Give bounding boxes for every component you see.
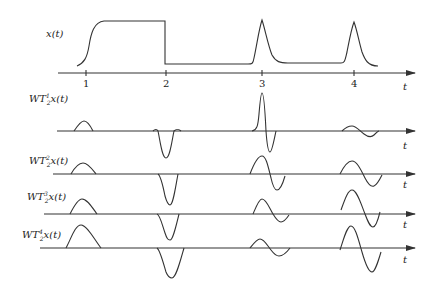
row-3-label: WT32x(t) (27, 190, 66, 204)
signal-axis-label: t (403, 81, 408, 92)
tick-label-1: 1 (83, 78, 89, 89)
row-1-label: WT12x(t) (29, 92, 68, 106)
row-2-curve (71, 156, 382, 205)
row-2-axis-label: t (403, 179, 408, 190)
signal-curve (77, 20, 378, 66)
row-4-axis-label: t (403, 254, 408, 265)
row-4-label: WT42x(t) (22, 228, 61, 242)
row-1-curve (74, 93, 379, 158)
wt-row-1: WT12x(t) t (29, 92, 415, 158)
row-3-axis-label: t (403, 219, 408, 230)
row-1-axis-label: t (403, 140, 408, 151)
tick-label-2: 2 (163, 78, 169, 89)
row-2-label: WT22x(t) (29, 154, 68, 168)
wavelet-diagram: x(t) 1 2 3 4 t WT12x(t) t WT22x(t) t WT3… (0, 0, 436, 297)
tick-label-3: 3 (259, 78, 265, 89)
row-3-curve (70, 190, 380, 240)
wt-row-3: WT32x(t) t (27, 190, 415, 240)
wt-row-4: WT42x(t) t (22, 225, 415, 278)
wt-row-2: WT22x(t) t (29, 154, 415, 205)
tick-label-4: 4 (351, 78, 357, 89)
signal-label: x(t) (46, 28, 64, 39)
signal-plot: x(t) 1 2 3 4 t (46, 20, 415, 92)
row-4-curve (66, 225, 381, 278)
